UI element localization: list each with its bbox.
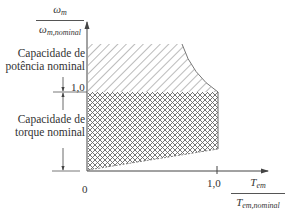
y-label-num: ω bbox=[53, 3, 61, 15]
x-label-den-sub: em,nominal bbox=[242, 201, 280, 210]
x-fraction-bar bbox=[231, 193, 285, 194]
power-capability-label: Capacidade de potência nominal bbox=[5, 47, 85, 73]
power-label-line2: potência nominal bbox=[5, 60, 85, 73]
y-fraction-bar bbox=[36, 20, 84, 21]
y-label-den-sub: m,nominal bbox=[47, 28, 81, 37]
x-tick-label-0: 0 bbox=[82, 183, 88, 195]
power-capability-region bbox=[88, 44, 218, 92]
y-tick-label-1: 1,0 bbox=[71, 81, 85, 93]
torque-label-line1: Capacidade de bbox=[15, 113, 85, 126]
x-label-num-sub: em bbox=[256, 181, 265, 190]
y-axis-label: ωm ωm,nominal bbox=[36, 3, 84, 39]
power-label-line1: Capacidade de bbox=[5, 47, 85, 60]
torque-label-line2: torque nominal bbox=[15, 126, 85, 139]
y-label-num-sub: m bbox=[61, 8, 67, 17]
y-label-den: ω bbox=[39, 23, 47, 35]
torque-capability-label: Capacidade de torque nominal bbox=[15, 113, 85, 139]
torque-capability-region bbox=[88, 92, 218, 170]
x-tick-label-1: 1,0 bbox=[207, 177, 221, 189]
x-axis-label: Tem Tem,nominal bbox=[231, 176, 285, 212]
